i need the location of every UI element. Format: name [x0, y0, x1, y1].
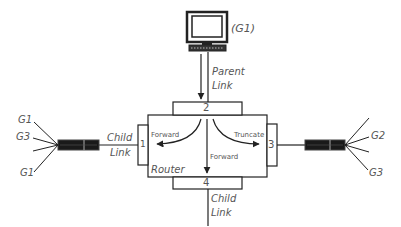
router-diagram	[0, 0, 401, 227]
left-cable-icon	[58, 140, 99, 150]
parent-link-label-line2: Link	[212, 81, 232, 91]
left-host-label-g1-top: G1	[18, 115, 32, 125]
left-host-label-g3: G3	[16, 132, 30, 142]
left-child-link-label-line2: Link	[110, 148, 130, 158]
right-cable-icon	[305, 140, 345, 150]
router-label: Router	[151, 165, 185, 175]
forward-left-label: Forward	[151, 132, 179, 139]
forward-down-label: Forward	[210, 154, 238, 161]
right-host-label-g3: G3	[369, 168, 383, 178]
port-4-label: 4	[203, 178, 209, 188]
port-2-label: 2	[203, 103, 209, 113]
parent-link-label-line1: Parent	[212, 67, 245, 77]
port-3-label: 3	[268, 140, 274, 150]
left-fanout-lines	[33, 122, 58, 172]
right-host-label-g2: G2	[371, 131, 385, 141]
truncate-right-label: Truncate	[234, 132, 264, 139]
bottom-child-link-label-line1: Child	[211, 194, 236, 204]
port-1-label: 1	[140, 140, 146, 149]
computer-group-label: (G1)	[231, 23, 255, 34]
computer-icon	[187, 12, 227, 51]
left-host-label-g1-bottom: G1	[20, 168, 34, 178]
right-fanout-lines	[345, 118, 369, 170]
left-child-link-label-line1: Child	[107, 133, 132, 143]
bottom-child-link-label-line2: Link	[211, 208, 231, 218]
